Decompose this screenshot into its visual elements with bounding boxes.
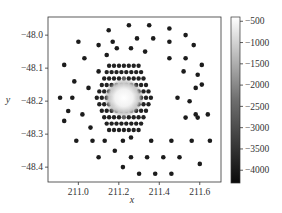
data-point [62, 119, 67, 124]
data-point [187, 99, 192, 104]
data-point [129, 155, 134, 160]
data-point [76, 40, 81, 45]
data-point [114, 70, 118, 74]
data-point [112, 76, 116, 80]
data-point [88, 125, 93, 130]
data-point [113, 148, 118, 153]
data-point [106, 28, 111, 33]
data-point [153, 172, 158, 177]
y-tick-label: −48.2 [21, 96, 43, 106]
data-point [141, 115, 145, 119]
data-point [86, 86, 91, 91]
data-point [96, 43, 101, 48]
data-point [80, 112, 85, 117]
data-point [146, 102, 150, 106]
data-point [114, 121, 118, 125]
data-point [136, 63, 140, 67]
data-point [117, 63, 121, 67]
y-tick-label: −48.4 [21, 162, 43, 172]
y-tick-label: −48.3 [21, 129, 43, 139]
data-point [189, 139, 194, 144]
data-point [145, 155, 150, 160]
data-point [90, 139, 95, 144]
data-point [96, 155, 101, 160]
data-point [121, 165, 126, 170]
data-point [198, 162, 203, 167]
x-tick-label: 211.2 [108, 187, 129, 197]
data-point [167, 40, 172, 45]
data-point [102, 115, 106, 119]
data-point [139, 121, 143, 125]
data-point [121, 139, 126, 144]
data-point [129, 135, 134, 140]
colorbar-tick-label: −4000 [245, 165, 270, 175]
colorbar-tick-label: −500 [245, 16, 265, 26]
data-point [102, 139, 107, 144]
colorbar-tick-label: −2500 [245, 102, 270, 112]
data-point [104, 53, 109, 58]
x-tick-label: 211.6 [189, 187, 210, 197]
data-point [129, 121, 133, 125]
data-point [167, 26, 172, 31]
data-point [95, 96, 99, 100]
data-point [97, 89, 101, 93]
data-point [175, 96, 180, 101]
data-point [183, 33, 188, 38]
data-point [97, 102, 101, 106]
data-point [161, 155, 166, 160]
data-point [107, 63, 111, 67]
data-point [195, 72, 200, 77]
data-point [183, 56, 188, 61]
data-point [112, 63, 116, 67]
data-point [132, 76, 136, 80]
data-point [146, 89, 150, 93]
data-point [149, 139, 154, 144]
colorbar-tick-label: −1000 [245, 38, 270, 48]
data-point [66, 109, 71, 114]
data-point [107, 115, 111, 119]
data-point [105, 70, 109, 74]
data-point [100, 83, 104, 87]
data-point [136, 128, 140, 132]
data-point [136, 76, 140, 80]
data-point [102, 76, 106, 80]
data-point [107, 76, 111, 80]
data-point [127, 23, 132, 28]
data-point [110, 40, 115, 45]
x-axis: 211.0211.2211.4211.6 [68, 182, 211, 197]
data-point [200, 82, 205, 87]
data-point [109, 70, 113, 74]
data-point [191, 43, 196, 48]
data-point [112, 128, 116, 132]
data-point [151, 36, 156, 41]
data-point [119, 70, 123, 74]
y-tick-label: −48.1 [21, 63, 43, 73]
data-point [74, 139, 79, 144]
data-point [58, 96, 63, 101]
data-point [193, 86, 198, 91]
colorbar-tick-label: −3000 [245, 123, 270, 133]
data-point [132, 128, 136, 132]
data-point [183, 115, 188, 120]
data-point [119, 121, 123, 125]
data-point [144, 109, 148, 113]
data-point [137, 172, 142, 177]
bright-core [104, 79, 144, 117]
y-tick-label: −48.0 [21, 30, 43, 40]
data-point [200, 63, 205, 68]
data-point [169, 172, 174, 177]
data-point [141, 76, 145, 80]
data-point [144, 96, 148, 100]
data-point [124, 70, 128, 74]
data-point [147, 23, 152, 28]
colorbar-ticks: −500−1000−1500−2000−2500−3000−3500−4000 [240, 16, 270, 175]
data-point [72, 79, 77, 84]
data-point [167, 56, 172, 61]
data-point [115, 46, 120, 51]
x-tick-label: 211.0 [68, 187, 89, 197]
data-point [149, 96, 153, 100]
colorbar [231, 17, 240, 183]
data-point [82, 56, 87, 61]
data-point [112, 115, 116, 119]
data-point [122, 63, 126, 67]
